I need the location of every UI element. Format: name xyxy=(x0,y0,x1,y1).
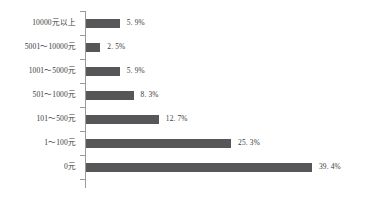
bar-chart: 10000元以上5. 9%5001～10000元2. 5%1001～5000元5… xyxy=(0,0,370,200)
category-label: 0元 xyxy=(0,155,76,179)
bar-and-value: 2. 5% xyxy=(86,35,125,59)
axis-tick xyxy=(80,179,85,180)
category-label: 1～100元 xyxy=(0,131,76,155)
bar-value-label: 5. 9% xyxy=(127,19,145,26)
bar xyxy=(86,43,100,52)
bar xyxy=(86,115,159,124)
bar-row: 10000元以上5. 9% xyxy=(0,11,370,35)
bar xyxy=(86,91,134,100)
bar-value-label: 39. 4% xyxy=(319,163,341,170)
bar-row: 501～1000元8. 3% xyxy=(0,83,370,107)
bar-row: 1～100元25. 3% xyxy=(0,131,370,155)
bar-value-label: 25. 3% xyxy=(238,139,260,146)
bar xyxy=(86,163,312,172)
bar-row: 101～500元12. 7% xyxy=(0,107,370,131)
bar-and-value: 25. 3% xyxy=(86,131,260,155)
bar xyxy=(86,139,231,148)
bar-value-label: 2. 5% xyxy=(107,43,125,50)
bar-row: 0元39. 4% xyxy=(0,155,370,179)
bar-and-value: 12. 7% xyxy=(86,107,188,131)
bar-value-label: 8. 3% xyxy=(141,91,159,98)
bar-row: 1001～5000元5. 9% xyxy=(0,59,370,83)
bar-and-value: 39. 4% xyxy=(86,155,341,179)
category-label: 1001～5000元 xyxy=(0,59,76,83)
bar xyxy=(86,67,120,76)
category-label: 5001～10000元 xyxy=(0,35,76,59)
bar-and-value: 8. 3% xyxy=(86,83,159,107)
plot-area: 10000元以上5. 9%5001～10000元2. 5%1001～5000元5… xyxy=(0,0,370,200)
category-label: 10000元以上 xyxy=(0,11,76,35)
bar xyxy=(86,19,120,28)
bar-and-value: 5. 9% xyxy=(86,59,145,83)
bar-row: 5001～10000元2. 5% xyxy=(0,35,370,59)
category-label: 101～500元 xyxy=(0,107,76,131)
bar-value-label: 12. 7% xyxy=(166,115,188,122)
bar-and-value: 5. 9% xyxy=(86,11,145,35)
category-label: 501～1000元 xyxy=(0,83,76,107)
bar-value-label: 5. 9% xyxy=(127,67,145,74)
